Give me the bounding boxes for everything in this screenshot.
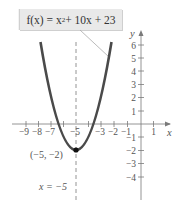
x-tick-label: −2	[108, 127, 118, 137]
y-tick-label: 4	[131, 67, 136, 77]
label-leader-line	[80, 30, 109, 57]
y-tick-label: 5	[131, 54, 136, 64]
vertex-label: (−5, −2)	[30, 149, 63, 161]
y-tick-label: −4	[126, 173, 136, 183]
y-tick-label: −3	[126, 159, 136, 169]
x-tick-label: 1	[151, 127, 156, 137]
x-tick-label: −5	[70, 127, 80, 137]
x-axis-arrow-icon	[165, 122, 171, 127]
y-tick-label: 3	[131, 80, 136, 90]
x-tick-label: −8	[32, 127, 42, 137]
y-tick-label: −1	[126, 133, 136, 143]
y-tick-label: 2	[131, 93, 136, 103]
axis-of-symmetry-label: x = −5	[38, 181, 67, 192]
y-axis-arrow-icon	[139, 30, 144, 36]
y-tick-label: 1	[131, 107, 136, 117]
vertex-point	[73, 147, 78, 152]
y-tick-label: −2	[126, 146, 136, 156]
function-graph: −9 −8 −7 −5 −3 −2 −1 1 x 6 5 4 3 2 1 −1 …	[0, 0, 178, 202]
y-axis-label: y	[129, 28, 135, 39]
x-tick-label: −9	[19, 127, 29, 137]
x-tick-label: −7	[45, 127, 55, 137]
x-tick-label: −3	[95, 127, 105, 137]
x-axis-label: x	[166, 127, 172, 138]
y-tick-label: 6	[131, 41, 136, 51]
y-tick-labels: 6 5 4 3 2 1 −1 −2 −3 −4	[126, 41, 136, 183]
